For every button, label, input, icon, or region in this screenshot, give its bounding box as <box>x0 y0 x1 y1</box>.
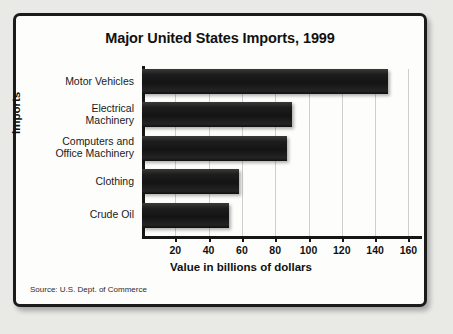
x-tick-label: 160 <box>388 244 428 256</box>
gridline <box>309 69 310 236</box>
gridline <box>342 69 343 236</box>
category-label-line: Machinery <box>24 114 134 126</box>
gridline <box>408 69 409 236</box>
category-label-line: Clothing <box>24 175 134 187</box>
bar-electrical-machinery <box>142 102 292 127</box>
y-axis-title: Imports <box>10 92 22 134</box>
bar-clothing <box>142 169 239 194</box>
gridline <box>375 69 376 236</box>
category-label: Motor Vehicles <box>24 75 134 87</box>
x-tick <box>342 236 344 242</box>
category-label-line: Electrical <box>24 102 134 114</box>
category-label: Computers andOffice Machinery <box>24 135 134 159</box>
x-tick <box>375 236 377 242</box>
bar-motor-vehicles <box>142 69 388 94</box>
x-tick <box>275 236 277 242</box>
bar-computers-and-office-machinery <box>142 136 287 161</box>
figure-card: Major United States Imports, 1999 Import… <box>13 13 427 307</box>
x-tick <box>309 236 311 242</box>
category-label-line: Office Machinery <box>24 147 134 159</box>
source-note: Source: U.S. Dept. of Commerce <box>30 285 147 294</box>
category-label: ElectricalMachinery <box>24 102 134 126</box>
category-label-line: Motor Vehicles <box>24 75 134 87</box>
category-label: Crude Oil <box>24 208 134 220</box>
x-axis-title: Value in billions of dollars <box>116 261 366 273</box>
x-axis-line <box>142 236 422 239</box>
x-tick <box>175 236 177 242</box>
chart-title: Major United States Imports, 1999 <box>16 30 424 46</box>
x-tick <box>408 236 410 242</box>
category-label-line: Computers and <box>24 135 134 147</box>
category-label-line: Crude Oil <box>24 208 134 220</box>
category-label: Clothing <box>24 175 134 187</box>
bar-crude-oil <box>142 203 229 228</box>
x-tick <box>209 236 211 242</box>
x-tick <box>242 236 244 242</box>
